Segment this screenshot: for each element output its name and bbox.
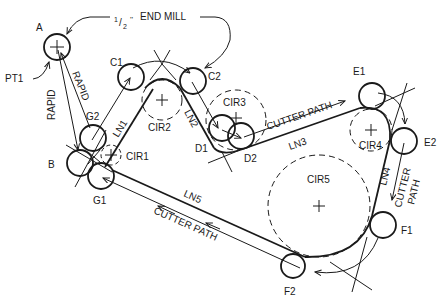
label-cir4: CIR4 xyxy=(359,140,382,151)
tool-circle-e2 xyxy=(391,128,417,154)
label-b: B xyxy=(48,159,55,170)
pt1-leader-arrow xyxy=(33,62,49,79)
tool-circle-a xyxy=(44,34,70,60)
circle-cir5 xyxy=(268,155,370,257)
label-d2: D2 xyxy=(244,153,257,164)
label-ln3: LN3 xyxy=(287,135,308,152)
label-f2: F2 xyxy=(284,286,296,297)
cutter-path-label-top: CUTTER PATH xyxy=(265,99,333,132)
label-d1: D1 xyxy=(195,143,208,154)
rapid-path-down xyxy=(58,50,78,150)
label-g1: G1 xyxy=(93,195,107,206)
tool-circle-f1 xyxy=(370,212,396,238)
cutter-path-label-bottom: CUTTER PATH xyxy=(152,205,219,243)
label-ln4: LN4 xyxy=(377,166,392,187)
label-a: A xyxy=(36,22,43,33)
label-e2: E2 xyxy=(424,137,437,148)
label-cir3: CIR3 xyxy=(223,97,246,108)
label-cir5: CIR5 xyxy=(307,174,330,185)
svg-text:2: 2 xyxy=(123,23,127,30)
label-ln1: LN1 xyxy=(110,117,129,139)
label-cir2: CIR2 xyxy=(148,122,171,133)
cnc-toolpath-diagram: A PT1 1 / 2 '' END MILL RAPID RAPID B G2… xyxy=(0,0,444,301)
label-pt1: PT1 xyxy=(5,73,24,84)
line-ln5 xyxy=(112,170,305,257)
label-c2: C2 xyxy=(208,71,221,82)
label-f1: F1 xyxy=(401,225,413,236)
label-g2: G2 xyxy=(86,111,100,122)
end-mill-callout: 1 / 2 '' END MILL xyxy=(67,11,230,68)
svg-text:'': '' xyxy=(130,15,134,24)
tool-circle-e1 xyxy=(359,83,385,109)
tool-circle-c2 xyxy=(180,68,206,94)
end-mill-label: END MILL xyxy=(140,11,187,22)
label-ln2: LN2 xyxy=(182,108,201,130)
label-cir1: CIR1 xyxy=(126,151,149,162)
tool-circle-g1 xyxy=(88,163,114,189)
rapid-label-down: RAPID xyxy=(46,89,57,120)
circle-cir1 xyxy=(101,145,121,165)
label-c1: C1 xyxy=(110,57,123,68)
svg-text:/: / xyxy=(119,17,122,28)
svg-text:1: 1 xyxy=(114,16,118,23)
tool-circle-f2 xyxy=(281,254,305,278)
label-e1: E1 xyxy=(353,66,366,77)
